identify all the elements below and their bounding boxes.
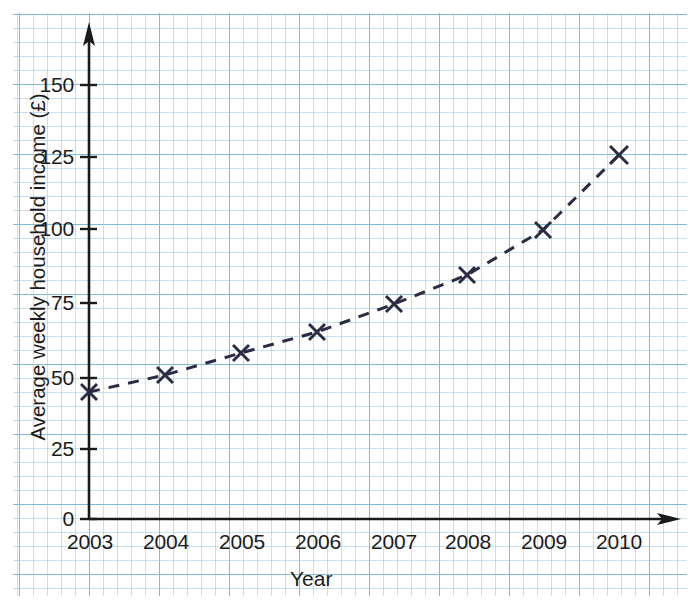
x-tick-label-2007: 2007 <box>356 530 432 554</box>
y-axis <box>83 22 95 520</box>
x-tick-label-2004: 2004 <box>128 530 204 554</box>
series-line-income <box>89 155 619 392</box>
data-point-2010 <box>610 146 628 164</box>
data-point-2004 <box>157 367 173 383</box>
chart-plot-area <box>0 0 700 609</box>
x-tick-label-2009: 2009 <box>506 530 582 554</box>
y-tick-label-0: 0 <box>10 507 74 531</box>
x-axis <box>89 513 681 525</box>
data-point-2007 <box>386 296 402 312</box>
series-markers <box>81 146 628 400</box>
x-tick-label-2005: 2005 <box>204 530 280 554</box>
chart-screenshot: 150 125 100 75 50 25 0 2003 2004 2005 20… <box>0 0 700 609</box>
data-point-2008 <box>459 267 475 283</box>
x-tick-label-2006: 2006 <box>280 530 356 554</box>
x-tick-label-2010: 2010 <box>581 530 657 554</box>
x-tick-label-2003: 2003 <box>52 530 128 554</box>
x-tick-label-2008: 2008 <box>430 530 506 554</box>
x-axis-title: Year <box>290 567 332 591</box>
y-axis-title: Average weekly household income (£) <box>26 57 50 477</box>
data-point-2009 <box>535 222 551 238</box>
